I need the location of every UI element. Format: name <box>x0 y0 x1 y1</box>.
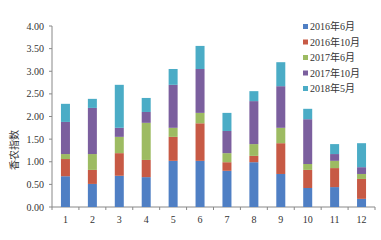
bar-segment <box>142 177 151 207</box>
bar-stack <box>276 62 285 207</box>
bar-segment <box>357 179 366 199</box>
bar-segment <box>357 174 366 179</box>
bar-segment <box>249 156 258 162</box>
bar-segment <box>303 188 312 207</box>
bar-segment <box>142 112 151 123</box>
bar-segment <box>222 113 231 131</box>
bar-stack <box>249 91 258 207</box>
bar-segment <box>276 86 285 128</box>
x-tick-label: 8 <box>251 214 256 225</box>
bar-segment <box>115 128 124 137</box>
bar-segment <box>222 131 231 153</box>
legend-swatch <box>303 40 308 45</box>
x-tick-label: 2 <box>90 214 95 225</box>
x-tick-label: 5 <box>171 214 176 225</box>
stacked-bar-chart: 0.000.501.001.502.002.503.003.504.00 123… <box>0 0 381 240</box>
y-tick-label: 2.50 <box>27 88 45 99</box>
bar-segment <box>303 119 312 164</box>
bar-stack <box>357 143 366 207</box>
bar-segment <box>115 85 124 128</box>
x-tick-label: 11 <box>330 214 340 225</box>
legend-label: 2016年6月 <box>310 20 355 32</box>
bar-segment <box>357 199 366 207</box>
bar-segment <box>88 170 97 184</box>
bar-segment <box>115 176 124 207</box>
bar-segment <box>61 154 70 159</box>
bar-segment <box>142 123 151 160</box>
bar-segment <box>276 143 285 174</box>
bar-segment <box>142 160 151 177</box>
x-tick-label: 4 <box>144 214 149 225</box>
bar-segment <box>88 154 97 170</box>
legend-label: 2018年5月 <box>310 82 355 94</box>
legend-swatch <box>303 55 308 60</box>
bar-segment <box>88 99 97 108</box>
bar-segment <box>61 176 70 207</box>
bar-stack <box>142 98 151 207</box>
bar-stack <box>330 144 339 207</box>
bar-segment <box>357 143 366 167</box>
bar-segment <box>330 161 339 168</box>
bar-segment <box>222 153 231 162</box>
bar-segment <box>142 98 151 112</box>
bar-segment <box>276 128 285 143</box>
legend-label: 2017年6月 <box>310 51 355 63</box>
legend-label: 2016年10月 <box>310 36 360 48</box>
y-tick-label: 3.00 <box>27 66 45 77</box>
bar-stack <box>88 99 97 207</box>
bar-segment <box>169 128 178 137</box>
y-tick-label: 0.50 <box>27 179 45 190</box>
bar-segment <box>88 184 97 207</box>
bar-stack <box>222 113 231 207</box>
bar-segment <box>169 85 178 128</box>
x-tick-label: 10 <box>303 214 313 225</box>
bar-segment <box>169 161 178 207</box>
y-tick-label: 3.50 <box>27 43 45 54</box>
bar-segment <box>303 164 312 170</box>
x-tick-label: 3 <box>117 214 122 225</box>
bar-segment <box>196 46 205 69</box>
x-tick-label: 12 <box>357 214 367 225</box>
bar-segment <box>303 170 312 188</box>
x-tick-label: 7 <box>224 214 229 225</box>
x-tick-label: 1 <box>63 214 68 225</box>
legend-swatch <box>303 24 308 29</box>
bar-segment <box>169 137 178 161</box>
bar-segment <box>61 104 70 122</box>
y-tick-label: 1.00 <box>27 156 45 167</box>
bar-stack <box>61 104 70 207</box>
y-tick-label: 4.00 <box>27 21 45 32</box>
bar-segment <box>61 159 70 176</box>
bar-segment <box>303 109 312 119</box>
legend: 2016年6月2016年10月2017年6月2017年10月2018年5月 <box>303 20 360 94</box>
bar-stack <box>196 46 205 207</box>
bar-segment <box>169 69 178 85</box>
y-tick-label: 2.00 <box>27 111 45 122</box>
bar-stack <box>169 69 178 207</box>
bar-stack <box>115 85 124 207</box>
bar-segment <box>330 154 339 161</box>
bar-segment <box>249 162 258 207</box>
legend-label: 2017年10月 <box>310 67 360 79</box>
bar-segment <box>196 161 205 207</box>
bar-segment <box>88 108 97 154</box>
bar-segment <box>196 123 205 161</box>
bar-segment <box>196 113 205 123</box>
legend-swatch <box>303 71 308 76</box>
y-axis-title: 香农指数 <box>8 130 20 170</box>
bar-segment <box>196 69 205 113</box>
bar-segment <box>115 137 124 153</box>
x-axis: 123456789101112 <box>52 207 375 225</box>
bar-segment <box>330 187 339 207</box>
bar-segment <box>276 62 285 86</box>
bar-segment <box>249 144 258 156</box>
bar-segment <box>222 162 231 171</box>
bar-segment <box>61 122 70 154</box>
bar-segment <box>249 91 258 101</box>
bar-segment <box>249 101 258 144</box>
bar-segment <box>222 171 231 207</box>
bar-segment <box>115 153 124 176</box>
bar-stack <box>303 109 312 207</box>
bar-segment <box>357 167 366 174</box>
bar-segment <box>330 168 339 187</box>
